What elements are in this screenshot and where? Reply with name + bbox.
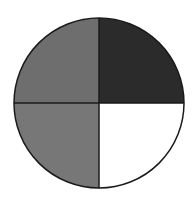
quadrant-top-right	[99, 18, 184, 103]
quartered-circle-diagram	[0, 0, 193, 200]
quadrant-top-left	[14, 18, 99, 103]
quadrant-bottom-left	[14, 103, 99, 188]
quadrant-bottom-right	[99, 103, 184, 188]
circle-figure	[0, 0, 193, 200]
